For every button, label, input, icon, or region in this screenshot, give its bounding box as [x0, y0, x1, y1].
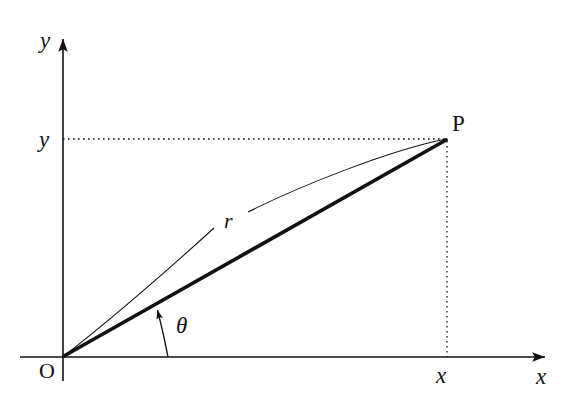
point-p-label: P — [452, 112, 465, 135]
angle-theta-label: θ — [176, 314, 187, 337]
diagram-canvas — [0, 0, 571, 417]
radius-vector — [64, 140, 446, 356]
radius-label: r — [224, 210, 233, 232]
origin-label: O — [39, 360, 55, 382]
x-axis-label: x — [536, 365, 546, 388]
y-axis-label: y — [40, 29, 50, 52]
radius-arc-right — [248, 139, 446, 212]
angle-arc — [158, 310, 169, 357]
x-tick-label: x — [436, 364, 446, 387]
radius-arc-left — [64, 228, 214, 356]
polar-coordinates-figure: y y O x x P r θ — [0, 0, 571, 417]
y-tick-label: y — [39, 128, 49, 151]
